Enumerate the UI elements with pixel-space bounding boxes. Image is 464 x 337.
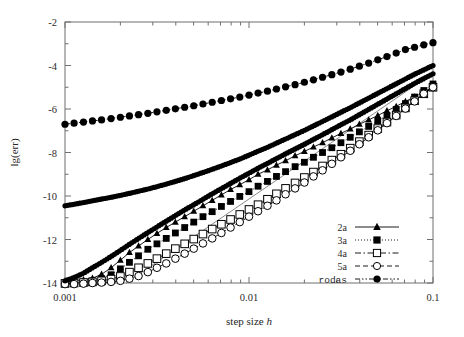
data-point-filled-triangle: [117, 256, 124, 262]
data-point-open-square: [190, 235, 198, 243]
data-point-open-circle: [337, 153, 345, 161]
data-point-filled-triangle: [282, 157, 289, 163]
data-point-open-circle: [301, 179, 309, 187]
data-point-filled-square: [209, 208, 216, 215]
data-point-filled-circle: [98, 116, 105, 123]
legend-label-3a: 3a: [338, 235, 348, 246]
legend-entry-4a[interactable]: 4a: [338, 248, 399, 259]
data-point-filled-square: [292, 163, 299, 170]
data-point-filled-circle: [181, 104, 188, 111]
data-point-open-square: [153, 255, 161, 263]
data-point-open-square: [172, 245, 180, 253]
data-point-open-square: [144, 260, 152, 268]
data-point-open-square: [135, 264, 143, 272]
data-point-open-circle: [144, 268, 152, 276]
legend-entry-rodas[interactable]: rodas: [318, 275, 399, 286]
data-point-filled-square: [255, 183, 262, 190]
data-point-filled-circle: [319, 74, 326, 81]
data-point-filled-square: [163, 235, 170, 242]
axis-titles: lg(err)step size h: [8, 138, 272, 327]
data-point-open-circle: [328, 160, 336, 168]
data-point-open-circle: [402, 105, 410, 113]
chart-legend: 2a3a4a5arodas: [318, 222, 399, 286]
data-point-open-circle: [126, 275, 134, 283]
data-point-filled-square: [172, 230, 179, 237]
data-point-filled-circle: [347, 66, 354, 73]
data-point-open-circle: [218, 229, 226, 237]
data-point-filled-triangle: [108, 264, 115, 270]
x-axis-title: step size h: [226, 315, 272, 327]
data-point-filled-square: [117, 265, 124, 272]
series-line-unlabeled-dense-lower: [65, 66, 433, 206]
data-point-open-circle: [98, 279, 106, 287]
data-point-filled-square: [200, 213, 207, 220]
data-point-filled-square: [181, 224, 188, 231]
data-point-filled-triangle: [126, 249, 133, 255]
data-point-filled-circle: [236, 93, 243, 100]
data-point-open-circle: [310, 173, 318, 181]
figure-container: -2-4-6-8-10-12-140.0010.010.1 lg(err)ste…: [0, 0, 464, 337]
data-point-open-circle: [319, 167, 327, 175]
data-point-filled-square: [135, 252, 142, 259]
data-point-filled-square: [374, 118, 381, 125]
data-point-filled-circle: [144, 110, 151, 117]
y-tick-label: -4: [48, 61, 57, 72]
data-point-filled-square: [218, 203, 225, 210]
data-point-filled-circle: [373, 275, 380, 282]
data-point-filled-square: [301, 159, 308, 166]
data-point-filled-circle: [190, 102, 197, 109]
data-point-filled-square: [227, 198, 234, 205]
data-point-filled-square: [338, 139, 345, 146]
data-point-open-circle: [227, 224, 235, 232]
legend-label-rodas: rodas: [318, 275, 347, 286]
data-point-open-circle: [236, 218, 244, 226]
data-point-filled-circle: [310, 76, 317, 83]
data-point-filled-triangle: [338, 130, 345, 136]
data-point-filled-circle: [163, 107, 170, 114]
chart-canvas: -2-4-6-8-10-12-140.0010.010.1 lg(err)ste…: [0, 0, 464, 337]
data-point-filled-square: [144, 246, 151, 253]
data-point-filled-square: [126, 259, 133, 266]
data-point-filled-square: [328, 144, 335, 151]
data-point-open-circle: [373, 262, 380, 269]
y-axis-title: lg(err): [8, 138, 21, 166]
data-point-open-square: [373, 249, 380, 256]
data-point-open-circle: [254, 207, 262, 215]
data-point-filled-circle: [393, 50, 400, 57]
data-point-open-square: [162, 250, 170, 258]
data-point-open-circle: [162, 260, 170, 268]
data-point-filled-triangle: [135, 242, 142, 248]
data-point-filled-circle: [374, 56, 381, 63]
data-point-filled-circle: [89, 117, 96, 124]
data-point-filled-triangle: [373, 223, 381, 230]
data-point-filled-square: [154, 240, 161, 247]
legend-entry-3a[interactable]: 3a: [338, 235, 399, 246]
data-point-filled-circle: [282, 83, 289, 90]
data-point-filled-circle: [429, 39, 436, 46]
data-point-filled-square: [236, 193, 243, 200]
data-point-filled-circle: [61, 121, 68, 128]
data-point-open-circle: [208, 235, 216, 243]
data-point-filled-square: [190, 219, 197, 226]
data-point-filled-triangle: [319, 139, 326, 145]
legend-entry-2a[interactable]: 2a: [338, 222, 399, 233]
data-point-open-circle: [153, 264, 161, 272]
data-point-filled-circle: [337, 68, 344, 75]
data-point-filled-circle: [135, 111, 142, 118]
data-point-filled-circle: [365, 60, 372, 67]
data-point-filled-circle: [218, 97, 225, 104]
data-point-open-circle: [190, 245, 198, 253]
data-point-filled-circle: [117, 114, 124, 121]
legend-entry-5a[interactable]: 5a: [338, 261, 399, 272]
x-tick-label: 0.1: [426, 292, 439, 303]
data-point-filled-triangle: [328, 134, 335, 140]
legend-label-2a: 2a: [338, 222, 348, 233]
data-point-open-circle: [70, 280, 78, 288]
data-point-filled-square: [282, 168, 289, 175]
series-unlabeled-dense-lower: [62, 63, 435, 208]
data-point-filled-circle: [172, 105, 179, 112]
data-point-filled-circle: [107, 115, 114, 122]
data-point-filled-circle: [383, 53, 390, 60]
data-point-open-circle: [199, 240, 207, 248]
data-point-filled-triangle: [292, 152, 299, 158]
